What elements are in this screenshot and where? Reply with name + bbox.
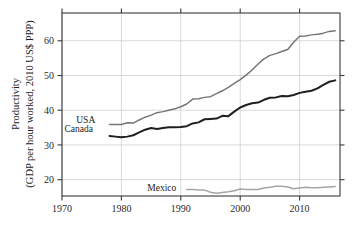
y-tick-label: 60 — [44, 35, 54, 46]
series-label-usa: USA — [76, 115, 95, 125]
y-axis-label-line2: (GDP per hour worked, 2010 US$ PPP) — [24, 20, 36, 188]
productivity-line-chart: 2030405060 19701980199020002010 USACanad… — [0, 0, 354, 229]
x-tick-label: 1970 — [52, 203, 72, 214]
chart-canvas: 2030405060 19701980199020002010 USACanad… — [0, 0, 354, 229]
y-tick-label: 50 — [44, 70, 54, 81]
x-tick-label: 1980 — [111, 203, 131, 214]
x-tick-label: 2000 — [230, 203, 250, 214]
x-tick-label: 2010 — [290, 203, 310, 214]
series-label-canada: Canada — [64, 124, 93, 134]
series-label-mexico: Mexico — [147, 183, 176, 193]
y-axis-label-line1: Productivity — [10, 77, 21, 130]
y-tick-label: 20 — [44, 174, 54, 185]
x-tick-label: 1990 — [171, 203, 191, 214]
y-tick-label: 40 — [44, 105, 54, 116]
y-tick-label: 30 — [44, 140, 54, 151]
